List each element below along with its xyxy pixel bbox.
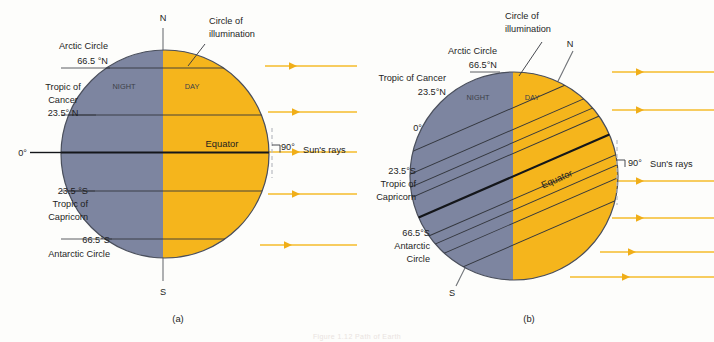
latitude-label-capricorn-a-line2: Tropic of xyxy=(53,199,89,209)
pole-south-label-b: S xyxy=(449,288,455,298)
pole-north-label-a: N xyxy=(160,13,167,23)
latitude-label-equator-a: 0° xyxy=(18,148,27,158)
figure-caption-faint: Figure 1.12 Path of Earth xyxy=(0,333,714,342)
latitude-label-arctic-circle-b-line2: 66.5°N xyxy=(469,60,497,70)
circle-of-illumination-label-a-line2: illumination xyxy=(209,29,255,39)
day-label-b: DAY xyxy=(525,93,540,102)
latitude-label-antarctic-b-line3: Circle xyxy=(407,254,430,264)
night-label-b: NIGHT xyxy=(467,93,490,102)
equator-label-a: Equator xyxy=(206,138,239,149)
pole-north-label-b: N xyxy=(567,39,574,49)
latitude-label-tropic-cancer-b-line1: Tropic of Cancer xyxy=(378,73,446,83)
latitude-label-capricorn-b-line3: Capricorn xyxy=(376,192,416,202)
suns-rays-arrowheads-a xyxy=(284,62,300,249)
latitude-label-tropic-cancer-a-line1: Tropic of xyxy=(45,82,81,92)
latitude-label-equator-b: 0° xyxy=(413,123,422,133)
suns-rays-arrowheads-b xyxy=(622,68,644,281)
day-label-a: DAY xyxy=(185,82,200,91)
suns-rays-label-b: Sun's rays xyxy=(650,159,693,169)
suns-rays-group-a xyxy=(260,66,357,245)
latitude-label-tropic-cancer-b-line2: 23.5°N xyxy=(418,87,446,97)
globe-a xyxy=(61,50,273,258)
globe-day-half-a xyxy=(163,50,273,258)
pole-south-label-a: S xyxy=(160,287,166,297)
latitude-label-capricorn-b-line2: Tropic of xyxy=(381,179,417,189)
night-label-a: NIGHT xyxy=(113,82,136,91)
angle-label-b: 90° xyxy=(628,158,642,168)
circle-of-illumination-label-b-line2: illumination xyxy=(505,24,551,34)
latitude-label-antarctic-b-line1: 66.5°S xyxy=(402,228,430,238)
circle-of-illumination-label-a-line1: Circle of xyxy=(209,16,243,26)
latitude-label-capricorn-a-line3: Capricorn xyxy=(48,212,88,222)
angle-label-a: 90° xyxy=(281,142,295,152)
right-angle-marker-a xyxy=(272,128,280,178)
figure-canvas: N S Circle of illumination Arctic Circle… xyxy=(0,0,714,342)
latitude-label-tropic-cancer-a-line2: Cancer xyxy=(48,95,78,105)
latitude-label-arctic-circle-a-line1: Arctic Circle xyxy=(59,41,108,51)
circle-of-illumination-leader-b xyxy=(519,42,542,76)
latitude-label-arctic-circle-a-line2: 66.5 °N xyxy=(77,56,108,66)
latitude-label-antarctic-a-line1: 66.5°S xyxy=(82,235,110,245)
latitude-label-capricorn-a-line1: 23.5 °S xyxy=(58,186,88,196)
suns-rays-label-a: Sun's rays xyxy=(303,145,346,155)
circle-of-illumination-label-b-line1: Circle of xyxy=(505,11,539,21)
panel-caption-b: (b) xyxy=(523,313,534,324)
panel-caption-a: (a) xyxy=(172,313,183,324)
latitude-label-arctic-circle-b-line1: Arctic Circle xyxy=(448,46,497,56)
panel-a: N S Circle of illumination Arctic Circle… xyxy=(18,13,357,324)
latitude-label-tropic-cancer-a-line3: 23.5° N xyxy=(48,108,79,118)
latitude-label-antarctic-b-line2: Antarctic xyxy=(394,241,430,251)
latitude-label-antarctic-a-line2: Antarctic Circle xyxy=(48,249,110,259)
latitude-label-capricorn-b-line1: 23.5°S xyxy=(388,166,416,176)
panel-b: N S Circle of illumination Arctic Circle… xyxy=(376,11,714,324)
right-angle-corner-b xyxy=(617,160,625,167)
